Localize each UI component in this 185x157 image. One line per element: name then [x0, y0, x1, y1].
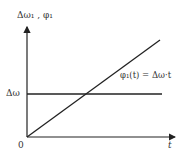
origin-label: 0: [18, 140, 24, 150]
y-level-label: Δω: [6, 88, 20, 98]
y-axis-label: Δω₁ , φ₁: [17, 10, 53, 20]
annotation-label: φ₁(t) = Δω·t: [120, 70, 171, 80]
x-axis-label: t: [168, 140, 172, 150]
phase-line: [27, 40, 160, 137]
